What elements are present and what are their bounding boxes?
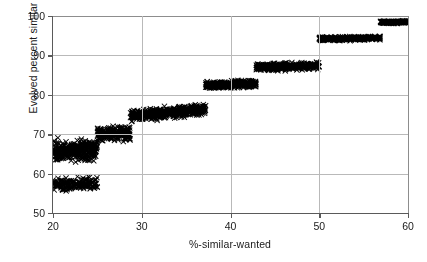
x-tick-label: 40 [225, 220, 237, 232]
x-tick-mark [142, 213, 143, 218]
x-tick-label: 20 [47, 220, 59, 232]
y-tick-label: 60 [33, 168, 45, 180]
x-tick-label: 30 [136, 220, 148, 232]
y-axis-title: Evolved percent similar [27, 0, 39, 153]
y-tick-label: 50 [33, 207, 45, 219]
y-tick-mark [48, 213, 53, 214]
scatter-points-layer [53, 16, 408, 213]
scatter-chart-figure: Evolved percent similar 5060708090100 20… [0, 0, 427, 262]
gridline-vertical [408, 16, 409, 213]
x-axis-title: %-similar-wanted [52, 238, 408, 250]
plot-area: 5060708090100 2030405060 [52, 16, 408, 214]
x-tick-mark [319, 213, 320, 218]
x-tick-mark [53, 213, 54, 218]
x-tick-label: 50 [313, 220, 325, 232]
x-tick-mark [231, 213, 232, 218]
x-tick-mark [408, 213, 409, 218]
x-tick-label: 60 [402, 220, 414, 232]
